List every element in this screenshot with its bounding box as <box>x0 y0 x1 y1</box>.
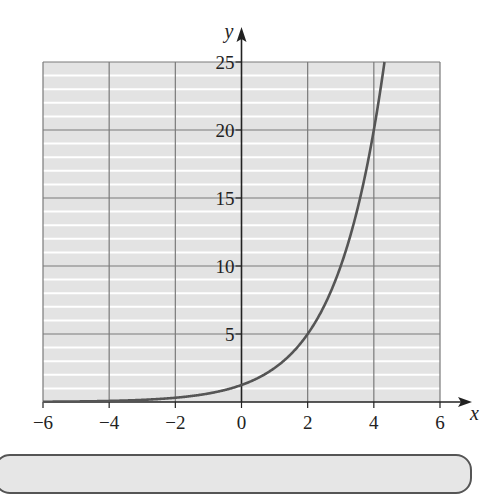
y-tick-label: 10 <box>216 256 235 277</box>
x-tick-label: 2 <box>303 412 313 433</box>
y-tick-label: 15 <box>216 188 235 209</box>
y-tick-label: 25 <box>216 52 235 73</box>
x-tick-label: 4 <box>369 412 379 433</box>
caption-box <box>0 454 472 494</box>
y-tick-label: 5 <box>225 324 235 345</box>
x-tick-label: 0 <box>237 412 247 433</box>
x-tick-label: −2 <box>165 412 185 433</box>
x-tick-label: 6 <box>435 412 445 433</box>
x-axis-label: x <box>469 402 479 424</box>
y-axis-label: y <box>223 20 234 43</box>
y-tick-label: 20 <box>216 120 235 141</box>
x-tick-label: −6 <box>33 412 53 433</box>
x-tick-label: −4 <box>99 412 120 433</box>
